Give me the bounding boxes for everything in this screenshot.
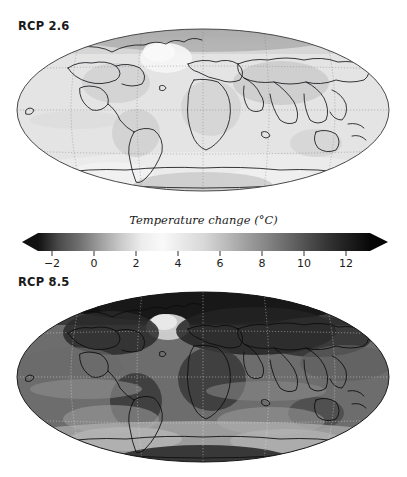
colorbar-tick-label-2: 2 bbox=[133, 257, 140, 270]
colorbar-title: Temperature change (°C) bbox=[0, 213, 407, 227]
colorbar-gradient[interactable] bbox=[38, 233, 370, 251]
colorbar-tick-label-8: 8 bbox=[259, 257, 266, 270]
colorbar: Temperature change (°C) bbox=[0, 213, 407, 271]
colorbar-tick-label-0: 0 bbox=[91, 257, 98, 270]
colorbar-tick-label-minus2: −2 bbox=[44, 257, 60, 270]
map-panel-rcp85 bbox=[16, 291, 390, 463]
colorbar-tick-label-10: 10 bbox=[297, 257, 311, 270]
colorbar-extend-low bbox=[22, 233, 38, 251]
map-panel-rcp26 bbox=[16, 28, 390, 192]
colorbar-extend-high bbox=[370, 233, 388, 251]
colorbar-tick-label-4: 4 bbox=[175, 257, 182, 270]
mollweide-map-rcp85 bbox=[16, 291, 390, 463]
colorbar-svg: −2 0 2 4 6 8 10 12 bbox=[0, 231, 407, 271]
climate-projection-figure: RCP 2.6 bbox=[0, 0, 407, 477]
mollweide-map-rcp26 bbox=[16, 28, 390, 192]
colorbar-tick-label-6: 6 bbox=[217, 257, 224, 270]
panel-label-rcp85: RCP 8.5 bbox=[18, 275, 70, 289]
colorbar-ticks bbox=[52, 251, 346, 256]
colorbar-tick-label-12: 12 bbox=[339, 257, 353, 270]
